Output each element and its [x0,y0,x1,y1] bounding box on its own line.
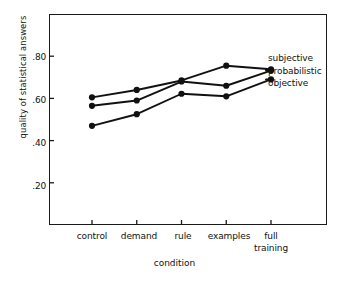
series-layer [89,63,274,129]
data-point-probabilistic-demand [134,97,140,103]
data-point-objective-demand [134,111,140,117]
data-point-subjective-control [89,94,95,100]
data-point-probabilistic-rule [178,78,184,84]
data-point-objective-control [89,123,95,129]
data-point-objective-rule [178,91,184,97]
data-point-probabilistic-examples [223,83,229,89]
series-line-probabilistic [92,71,271,106]
data-point-subjective-examples [223,63,229,69]
x-axis-ticks [92,220,271,225]
chart-canvas [0,0,349,281]
data-point-subjective-demand [134,87,140,93]
y-axis-ticks [49,56,54,183]
data-point-probabilistic-control [89,103,95,109]
data-point-objective-examples [223,93,229,99]
chart-figure: .80 .60 .40 .20 quality of statistical a… [0,0,349,281]
